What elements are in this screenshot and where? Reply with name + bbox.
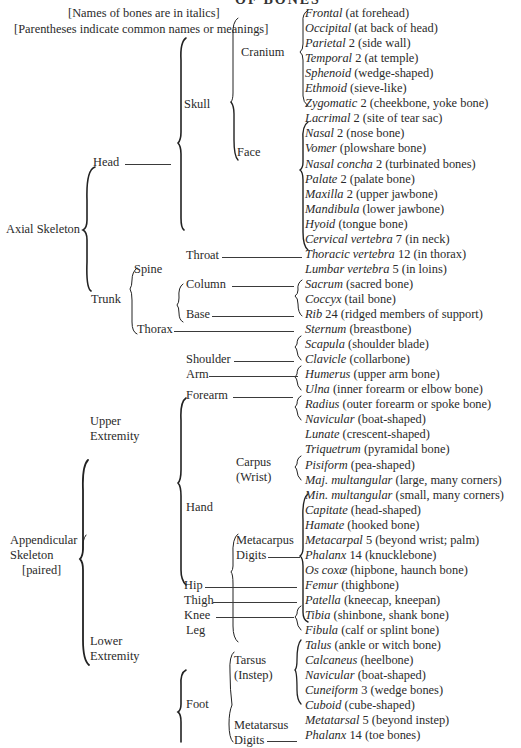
- bone-count: 7: [396, 232, 402, 246]
- bone-meaning: (breastbone): [349, 322, 411, 336]
- bone-entry: Tibia (shinbone, shank bone): [305, 608, 449, 623]
- bone-entry: Lumbar vertebra 5 (in loins): [305, 262, 447, 277]
- region-upper-extremity-1: Upper: [90, 414, 121, 429]
- bone-name: Rib: [305, 307, 322, 321]
- bone-entry: Maxilla 2 (upper jawbone): [305, 187, 438, 202]
- connector-line: [268, 557, 300, 558]
- bone-name: Humerus: [305, 367, 350, 381]
- region-lower-extremity-1: Lower: [90, 634, 122, 649]
- bone-name: Nasal concha: [305, 157, 373, 171]
- bone-name: Nasal: [305, 126, 334, 140]
- region-upper-extremity-2: Extremity: [90, 429, 140, 444]
- bone-meaning: (at forehead): [346, 6, 410, 20]
- bone-entry: Cuneiform 3 (wedge bones): [305, 683, 443, 698]
- bone-meaning: (palate bone): [350, 172, 415, 186]
- bone-name: Fibula: [305, 623, 338, 637]
- region-tarsus-instep: (Instep): [234, 668, 273, 683]
- region-hip: Hip: [184, 578, 203, 593]
- bone-entry: Temporal 2 (at temple): [305, 51, 419, 66]
- bone-name: Os coxæ: [305, 563, 347, 577]
- region-lower-extremity-2: Extremity: [90, 649, 140, 664]
- connector-line: [205, 587, 297, 588]
- region-cranium: Cranium: [241, 45, 284, 60]
- bone-entry: Radius (outer forearm or spoke bone): [305, 397, 491, 412]
- bone-count: 14: [349, 728, 361, 742]
- bone-count: 24: [325, 307, 337, 321]
- bone-entry: Phalanx 14 (toe bones): [305, 728, 420, 743]
- bone-meaning: (cube-shaped): [345, 698, 415, 712]
- region-spine: Spine: [134, 262, 162, 277]
- bone-name: Phalanx: [305, 728, 346, 742]
- bone-name: Cervical vertebra: [305, 232, 393, 246]
- bone-entry: Cervical vertebra 7 (in neck): [305, 232, 450, 247]
- bone-entry: Fibula (calf or splint bone): [305, 623, 439, 638]
- bone-entry: Patella (kneecap, kneepan): [305, 593, 440, 608]
- bone-entry: Ulna (inner forearm or elbow bone): [305, 382, 483, 397]
- bone-count: 5: [366, 533, 372, 547]
- bone-name: Clavicle: [305, 352, 346, 366]
- region-carpus-wrist: (Wrist): [236, 470, 271, 485]
- bone-meaning: (thighbone): [341, 578, 399, 592]
- connector-line: [212, 316, 294, 317]
- bone-entry: Vomer (plowshare bone): [305, 141, 426, 156]
- bone-name: Occipital: [305, 21, 351, 35]
- region-digits-foot: Digits: [234, 733, 264, 748]
- bone-entry: Nasal concha 2 (turbinated bones): [305, 157, 476, 172]
- bone-meaning: (collarbone): [349, 352, 410, 366]
- division-axial-skeleton: Axial Skeleton: [6, 222, 80, 237]
- connector-line: [234, 361, 294, 362]
- bone-name: Pisiform: [305, 458, 348, 472]
- bone-name: Hamate: [305, 518, 344, 532]
- bone-name: Triquetrum: [305, 442, 361, 456]
- region-knee: Knee: [184, 608, 210, 623]
- bone-entry: Calcaneus (heelbone): [305, 653, 413, 668]
- connector-line: [216, 617, 294, 618]
- bone-meaning: (nose bone): [346, 126, 404, 140]
- region-carpus: Carpus: [236, 455, 271, 470]
- bone-meaning: (ridged members of support): [341, 307, 483, 321]
- bone-entry: Occipital (at back of head): [305, 21, 438, 36]
- bone-name: Thoracic vertebra: [305, 247, 395, 261]
- bone-meaning: (site of tear sac): [363, 111, 442, 125]
- region-forearm: Forearm: [186, 388, 228, 403]
- bone-meaning: (calf or splint bone): [341, 623, 439, 637]
- bone-entry: Thoracic vertebra 12 (in thorax): [305, 247, 466, 262]
- bone-name: Maxilla: [305, 187, 344, 201]
- bone-name: Lumbar vertebra: [305, 262, 389, 276]
- bone-entry: Clavicle (collarbone): [305, 352, 410, 367]
- region-foot: Foot: [186, 697, 209, 712]
- bone-name: Cuboid: [305, 698, 342, 712]
- connector-line: [222, 257, 302, 258]
- bone-meaning: (hooked bone): [347, 518, 419, 532]
- bone-entry: Cuboid (cube-shaped): [305, 698, 415, 713]
- region-arm: Arm: [186, 367, 209, 382]
- bone-entry: Hyoid (tongue bone): [305, 217, 408, 232]
- bone-name: Radius: [305, 397, 339, 411]
- bone-meaning: (upper jawbone): [356, 187, 438, 201]
- bone-name: Sternum: [305, 322, 346, 336]
- region-skull: Skull: [184, 97, 210, 112]
- bone-entry: Femur (thighbone): [305, 578, 399, 593]
- bone-meaning: (heelbone): [360, 653, 413, 667]
- bone-meaning: (side wall): [358, 36, 411, 50]
- bone-meaning: (cheekbone, yoke bone): [370, 96, 489, 110]
- bone-entry: Coccyx (tail bone): [305, 292, 396, 307]
- bone-entry: Nasal 2 (nose bone): [305, 126, 405, 141]
- connector-line: [209, 376, 298, 377]
- bone-entry: Humerus (upper arm bone): [305, 367, 440, 382]
- region-face: Face: [237, 145, 260, 160]
- bone-count: 5: [363, 713, 369, 727]
- bone-count: 2: [354, 111, 360, 125]
- bone-entry: Pisiform (pea-shaped): [305, 458, 415, 473]
- bone-meaning: (at back of head): [354, 21, 438, 35]
- bone-entry: Rib 24 (ridged members of support): [305, 307, 483, 322]
- bone-name: Patella: [305, 593, 341, 607]
- bone-meaning: (in thorax): [413, 247, 466, 261]
- bone-meaning: (ankle or witch bone): [335, 638, 441, 652]
- bone-meaning: (shoulder blade): [348, 337, 429, 351]
- bone-meaning: (crescent-shaped): [343, 427, 430, 441]
- bone-name: Capitate: [305, 503, 348, 517]
- bone-entry: Metatarsal 5 (beyond instep): [305, 713, 449, 728]
- bone-count: 12: [398, 247, 410, 261]
- bone-name: Zygomatic: [305, 96, 357, 110]
